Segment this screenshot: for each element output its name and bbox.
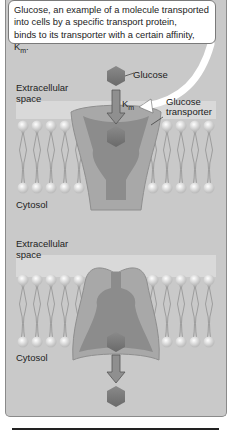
extracellular-label-bottom: Extracellularspace [16,238,68,260]
km-label: Km [122,98,134,113]
glucose-label: Glucose [133,69,168,80]
callout-line-2: into cells by a specific transport prote… [14,16,210,28]
divider-rule [12,428,219,430]
glucose-released-icon [107,386,125,407]
callout-line-1: Glucose, an example of a molecule transp… [14,4,210,16]
cytosol-label-top: Cytosol [16,199,48,210]
cytosol-label-bottom: Cytosol [16,352,48,363]
callout-box: Glucose, an example of a molecule transp… [8,0,216,44]
extracellular-label-top: Extracellularspace [16,82,68,104]
arrow-down-icon [107,355,125,383]
glucose-molecule-icon [107,66,125,86]
callout-line-3: binds to its transporter with a certain … [14,29,210,57]
transporter-label: Glucosetransporter [166,97,212,117]
